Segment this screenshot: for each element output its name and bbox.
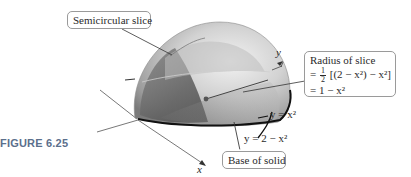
figure-label: FIGURE 6.25 [0,137,68,149]
callout-text: Base of solid [228,154,285,166]
callout-semicircular-slice: Semicircular slice [67,11,151,29]
axis-label-y: y [276,46,281,58]
callout-base-of-solid: Base of solid [222,151,286,169]
radius-formula-line1: = 1 2 [(2 − x²) − x²] [310,67,390,84]
callout-radius-of-slice: Radius of slice = 1 2 [(2 − x²) − x²] = … [304,51,396,97]
z-axis-stub [125,79,135,80]
callout-text: Semicircular slice [73,14,152,26]
fraction-one-half: 1 2 [320,67,326,84]
curve-label-upper: y = 2 − x² [244,132,287,144]
radius-formula-line2: = 1 − x² [310,84,390,97]
y-axis-back [97,120,138,132]
figure-canvas: Semicircular slice Radius of slice = 1 2… [0,0,411,177]
axis-label-x: x [197,163,202,175]
curve-label-lower: y = x² [270,108,296,120]
x-axis-front [138,120,205,165]
leader-base [234,122,240,149]
x-axis-back [100,90,137,119]
slice-center-point [204,97,209,102]
leader-semicircular-slice [122,29,172,55]
